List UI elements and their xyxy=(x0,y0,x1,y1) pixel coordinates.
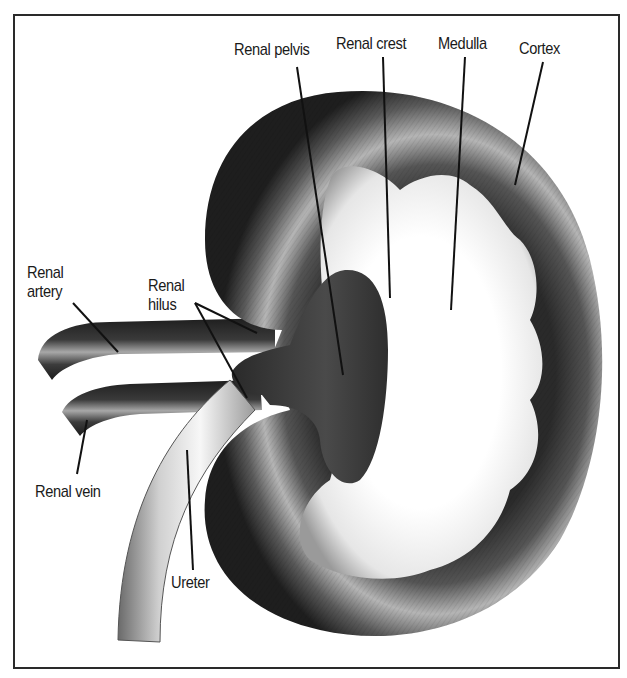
label-renal-hilus-line2: hilus xyxy=(148,295,184,314)
label-renal-hilus-line1: Renal xyxy=(148,276,184,295)
kidney-illustration xyxy=(0,0,627,678)
label-ureter: Ureter xyxy=(171,573,210,592)
label-renal-artery: Renal artery xyxy=(27,263,63,301)
label-renal-pelvis: Renal pelvis xyxy=(234,40,310,59)
kidney-diagram: Renal pelvis Renal crest Medulla Cortex … xyxy=(0,0,627,678)
label-renal-hilus: Renal hilus xyxy=(148,276,184,314)
label-renal-artery-line1: Renal xyxy=(27,263,63,282)
label-renal-vein: Renal vein xyxy=(35,482,101,501)
label-renal-crest: Renal crest xyxy=(336,34,406,53)
label-medulla: Medulla xyxy=(438,34,487,53)
label-renal-artery-line2: artery xyxy=(27,282,63,301)
label-cortex: Cortex xyxy=(519,39,560,58)
